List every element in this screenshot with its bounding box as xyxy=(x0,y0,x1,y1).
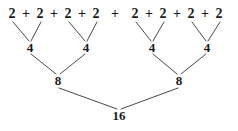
tree-edge-13 xyxy=(59,88,117,109)
partial-sum-4-4: 4 xyxy=(204,41,211,54)
leaf-term-4: 2 xyxy=(93,7,100,21)
leaf-term-3: 2 xyxy=(65,7,72,21)
partial-sum-4-1: 4 xyxy=(27,41,34,54)
total-sum-16: 16 xyxy=(113,109,126,122)
tree-edge-2 xyxy=(31,22,41,41)
leaf-term-7: 2 xyxy=(188,7,195,21)
tree-edge-4 xyxy=(87,22,97,41)
plus-operator-5: + xyxy=(145,7,153,21)
partial-sum-4-3: 4 xyxy=(149,41,156,54)
tree-edge-14 xyxy=(121,88,178,109)
tree-edge-6 xyxy=(153,22,164,41)
tree-edge-9 xyxy=(31,54,56,74)
tree-edge-11 xyxy=(153,54,177,74)
leaf-term-2: 2 xyxy=(37,7,44,21)
tree-edge-3 xyxy=(69,22,85,41)
tree-edge-5 xyxy=(136,22,151,41)
partial-sum-8-1: 8 xyxy=(55,74,62,87)
partial-sum-4-2: 4 xyxy=(83,41,90,54)
partial-sum-8-2: 8 xyxy=(176,74,183,87)
leaf-term-1: 2 xyxy=(9,7,16,21)
tree-edge-7 xyxy=(192,22,206,41)
plus-operator-4: + xyxy=(111,7,119,21)
tree-edge-12 xyxy=(181,54,206,74)
plus-operator-2: + xyxy=(50,7,58,21)
tree-edge-8 xyxy=(208,22,220,41)
leaf-term-6: 2 xyxy=(160,7,167,21)
leaf-term-5: 2 xyxy=(132,7,139,21)
plus-operator-1: + xyxy=(22,7,30,21)
tree-edge-10 xyxy=(60,54,85,74)
leaf-term-8: 2 xyxy=(216,7,223,21)
plus-operator-3: + xyxy=(78,7,86,21)
plus-operator-6: + xyxy=(173,7,181,21)
plus-operator-7: + xyxy=(201,7,209,21)
addition-tree-figure: 2 + 2 + 2 + 2 + 2 + 2 + 2 + 2 4 4 4 4 8 … xyxy=(0,0,238,131)
tree-edge-1 xyxy=(13,22,29,41)
